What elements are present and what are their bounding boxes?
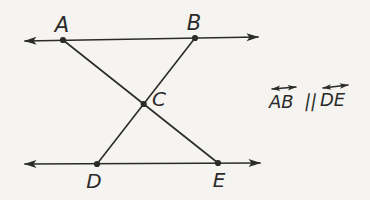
parallel-statement: AB || DE xyxy=(268,85,348,112)
point-E-dot xyxy=(215,160,221,166)
point-D-dot xyxy=(94,161,100,167)
point-A-dot xyxy=(60,37,66,43)
point-E-label: E xyxy=(213,168,226,192)
point-B-label: B xyxy=(187,11,201,35)
parallel-symbol: || xyxy=(303,90,319,111)
point-D-label: D xyxy=(86,169,101,193)
point-A-label: A xyxy=(53,13,69,37)
statement-rhs: DE xyxy=(320,89,346,110)
line-through-DE xyxy=(25,163,260,164)
point-B-dot xyxy=(192,35,198,41)
line-symbol-over-AB xyxy=(272,87,296,89)
segment-AE xyxy=(63,40,218,163)
point-C-dot xyxy=(141,101,147,107)
point-C-label: C xyxy=(152,87,166,111)
figure-canvas: A B C D E AB || DE xyxy=(0,0,370,200)
line-symbol-over-DE xyxy=(323,85,348,88)
geometry-diagram: A B C D E AB || DE xyxy=(0,0,370,200)
segment-BD xyxy=(97,38,195,164)
statement-lhs: AB xyxy=(268,91,294,112)
